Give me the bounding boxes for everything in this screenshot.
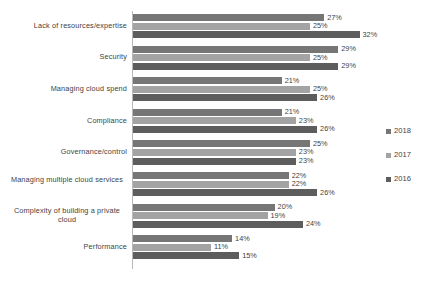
bar-row: 15%: [133, 252, 433, 259]
bar[interactable]: [133, 140, 310, 147]
bar[interactable]: [133, 126, 317, 133]
category-label: Managing multiple cloud services: [7, 176, 127, 185]
bar-value-label: 15%: [242, 251, 257, 261]
legend-label-2018: 2018: [394, 127, 411, 135]
category-label: Lack of resources/expertise: [7, 22, 127, 31]
bar-row: 26%: [133, 94, 433, 101]
bar-value-label: 26%: [320, 93, 335, 103]
bar[interactable]: [133, 23, 310, 30]
legend-swatch-icon-2016: [386, 177, 391, 182]
bar[interactable]: [133, 235, 232, 242]
legend-swatch-icon-2017: [386, 153, 391, 158]
bar-chart: Lack of resources/expertise27%25%32%Secu…: [0, 0, 435, 281]
bar-value-label: 21%: [285, 107, 300, 117]
bar-value-label: 19%: [271, 211, 286, 221]
bar-group: Managing multiple cloud services22%22%26…: [0, 172, 435, 196]
category-label: Managing cloud spend: [7, 85, 127, 94]
bar[interactable]: [133, 109, 282, 116]
bar-row: 25%: [133, 23, 433, 30]
bar-value-label: 25%: [313, 21, 328, 31]
bar[interactable]: [133, 172, 289, 179]
bar[interactable]: [133, 94, 317, 101]
bar[interactable]: [133, 54, 310, 61]
category-label: Complexity of building a private cloud: [7, 207, 127, 224]
bar-group: Complexity of building a private cloud20…: [0, 204, 435, 228]
bar[interactable]: [133, 158, 296, 165]
legend-swatch-icon-2018: [386, 129, 391, 134]
bar-row: 24%: [133, 221, 433, 228]
legend-label-2017: 2017: [394, 151, 411, 159]
bar[interactable]: [133, 117, 296, 124]
bar-row: 27%: [133, 14, 433, 21]
bar-group: Governance/control25%23%23%: [0, 140, 435, 164]
bar-row: 29%: [133, 63, 433, 70]
bar-row: 21%: [133, 109, 433, 116]
bar-row: 32%: [133, 31, 433, 38]
bar-value-label: 27%: [327, 13, 342, 23]
bar[interactable]: [133, 31, 360, 38]
bar-value-label: 24%: [306, 219, 321, 229]
bar-group: Lack of resources/expertise27%25%32%: [0, 14, 435, 38]
bar-value-label: 22%: [292, 179, 307, 189]
bar[interactable]: [133, 212, 268, 219]
bar[interactable]: [133, 204, 275, 211]
category-label: Performance: [7, 243, 127, 252]
bar-value-label: 29%: [341, 61, 356, 71]
bar[interactable]: [133, 86, 310, 93]
legend-label-2016: 2016: [394, 175, 411, 183]
bar[interactable]: [133, 181, 289, 188]
bar-row: 20%: [133, 204, 433, 211]
bar-value-label: 21%: [285, 76, 300, 86]
bar-value-label: 25%: [313, 53, 328, 63]
bar-group: Managing cloud spend21%25%26%: [0, 77, 435, 101]
bar-group: Performance14%11%15%: [0, 235, 435, 259]
bar[interactable]: [133, 14, 324, 21]
legend-item-2017[interactable]: 2017: [386, 151, 435, 175]
bar[interactable]: [133, 252, 239, 259]
legend-item-2018[interactable]: 2018: [386, 127, 435, 151]
bar-group: Security29%25%29%: [0, 46, 435, 70]
bar[interactable]: [133, 46, 338, 53]
bar-row: 11%: [133, 244, 433, 251]
bar-value-label: 14%: [235, 234, 250, 244]
bar[interactable]: [133, 77, 282, 84]
plot-area: Lack of resources/expertise27%25%32%Secu…: [0, 11, 435, 269]
bar-value-label: 32%: [363, 30, 378, 40]
bar-value-label: 25%: [313, 139, 328, 149]
chart-legend: 2018 2017 2016: [386, 127, 435, 199]
bar-value-label: 11%: [214, 242, 228, 252]
bar-value-label: 23%: [299, 116, 314, 126]
bar[interactable]: [133, 244, 211, 251]
bar[interactable]: [133, 221, 303, 228]
bar-row: 29%: [133, 46, 433, 53]
category-label: Compliance: [7, 117, 127, 126]
bar-row: 21%: [133, 77, 433, 84]
bar-value-label: 26%: [320, 124, 335, 134]
category-label: Security: [7, 53, 127, 62]
bar-row: 19%: [133, 212, 433, 219]
bar[interactable]: [133, 63, 338, 70]
bar-value-label: 26%: [320, 188, 335, 198]
bar-row: 25%: [133, 54, 433, 61]
bar-row: 14%: [133, 235, 433, 242]
legend-item-2016[interactable]: 2016: [386, 175, 435, 199]
bar-value-label: 29%: [341, 44, 356, 54]
bar-value-label: 23%: [299, 156, 314, 166]
bar[interactable]: [133, 189, 317, 196]
bar[interactable]: [133, 149, 296, 156]
bar-row: 25%: [133, 86, 433, 93]
category-label: Governance/control: [7, 148, 127, 157]
bar-row: 23%: [133, 117, 433, 124]
bar-group: Compliance21%23%26%: [0, 109, 435, 133]
